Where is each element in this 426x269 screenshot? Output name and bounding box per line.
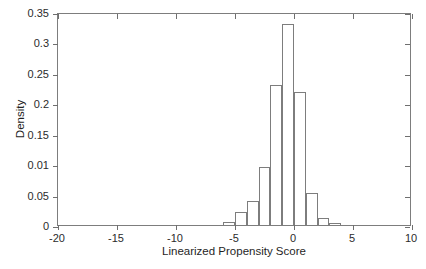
x-axis-tick bbox=[235, 225, 236, 230]
y-axis-tick bbox=[53, 166, 58, 167]
x-axis-tick bbox=[117, 225, 118, 230]
histogram-bar bbox=[235, 212, 247, 225]
x-axis-tick-top bbox=[412, 14, 413, 19]
histogram-bar bbox=[247, 201, 259, 225]
x-axis-tick-top bbox=[294, 14, 295, 19]
y-axis-tick-label: 0.05 bbox=[28, 190, 49, 202]
x-axis-tick-top bbox=[235, 14, 236, 19]
x-axis-tick bbox=[294, 225, 295, 230]
histogram-bar bbox=[329, 223, 341, 225]
x-axis-tick-label: -15 bbox=[108, 232, 124, 244]
x-axis-tick-label: -10 bbox=[167, 232, 183, 244]
histogram-bar bbox=[270, 85, 282, 225]
histogram-figure: 00.050.010.150.20.250.30.35-20-15-10-505… bbox=[0, 0, 426, 269]
y-axis-tick-label: 0.2 bbox=[34, 98, 49, 110]
y-axis-tick-label: 0.35 bbox=[28, 7, 49, 19]
x-axis-tick-top bbox=[353, 14, 354, 19]
y-axis-tick-right bbox=[405, 44, 410, 45]
y-axis-tick bbox=[53, 75, 58, 76]
x-axis-tick-top bbox=[117, 14, 118, 19]
x-axis-tick bbox=[353, 225, 354, 230]
x-axis-tick-top bbox=[176, 14, 177, 19]
x-axis-title: Linearized Propensity Score bbox=[57, 245, 411, 257]
plot-area bbox=[58, 14, 410, 225]
y-axis-tick-right bbox=[405, 75, 410, 76]
plot-frame bbox=[57, 13, 411, 226]
y-axis-tick-label: 0.01 bbox=[28, 159, 49, 171]
y-axis-title: Density bbox=[14, 100, 26, 138]
y-axis-tick-label: 0.25 bbox=[28, 68, 49, 80]
y-axis-tick-right bbox=[405, 227, 410, 228]
y-axis-tick-right bbox=[405, 136, 410, 137]
y-axis-tick bbox=[53, 136, 58, 137]
x-axis-tick-label: 10 bbox=[405, 232, 417, 244]
histogram-bar bbox=[318, 218, 330, 225]
y-axis-tick-label: 0.15 bbox=[28, 129, 49, 141]
y-axis-tick-right bbox=[405, 105, 410, 106]
x-axis-tick-top bbox=[58, 14, 59, 19]
histogram-bar bbox=[294, 92, 306, 225]
histogram-bar bbox=[282, 24, 294, 225]
x-axis-tick bbox=[176, 225, 177, 230]
x-axis-tick-label: -20 bbox=[49, 232, 65, 244]
x-axis-tick bbox=[58, 225, 59, 230]
histogram-bar bbox=[259, 167, 271, 225]
x-axis-tick bbox=[412, 225, 413, 230]
x-axis-tick-label: -5 bbox=[229, 232, 239, 244]
y-axis-tick-right bbox=[405, 197, 410, 198]
histogram-bar bbox=[223, 222, 235, 225]
y-axis-tick-right bbox=[405, 166, 410, 167]
y-axis-tick-right bbox=[405, 14, 410, 15]
histogram-bar bbox=[306, 193, 318, 225]
x-axis-tick-label: 5 bbox=[349, 232, 355, 244]
y-axis-tick bbox=[53, 197, 58, 198]
x-axis-tick-label: 0 bbox=[290, 232, 296, 244]
y-axis-tick-label: 0.3 bbox=[34, 37, 49, 49]
y-axis-tick-label: 0 bbox=[43, 220, 49, 232]
y-axis-tick bbox=[53, 105, 58, 106]
y-axis-tick bbox=[53, 44, 58, 45]
